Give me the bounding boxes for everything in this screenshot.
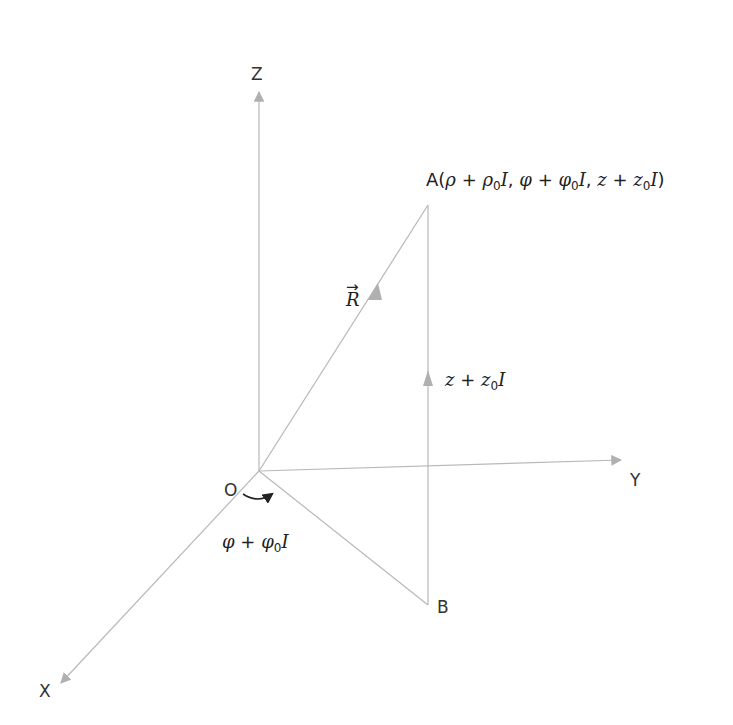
point-b-label: B xyxy=(437,597,449,617)
cylindrical-coordinate-diagram: Z Y X O B A(ρ + ρ0I, φ + φ0I, z + z0I) →… xyxy=(0,0,733,725)
height-arrowhead-icon xyxy=(423,370,433,386)
diagram-svg: Z Y X O B A(ρ + ρ0I, φ + φ0I, z + z0I) →… xyxy=(0,0,733,725)
origin-label: O xyxy=(224,480,237,500)
vector-r-label: R xyxy=(345,289,360,310)
point-a-label: A(ρ + ρ0I, φ + φ0I, z + z0I) xyxy=(426,169,665,193)
angle-label: φ + φ0I xyxy=(222,531,289,555)
vector-r-arrowhead-icon xyxy=(368,283,382,300)
z-axis-label: Z xyxy=(251,64,263,84)
vector-r-line xyxy=(259,205,428,471)
y-axis xyxy=(259,460,621,471)
x-axis xyxy=(61,471,259,683)
y-axis-label: Y xyxy=(629,470,641,490)
x-axis-label: X xyxy=(39,681,51,701)
angle-arc-icon xyxy=(243,494,272,499)
height-label: z + z0I xyxy=(444,369,506,393)
